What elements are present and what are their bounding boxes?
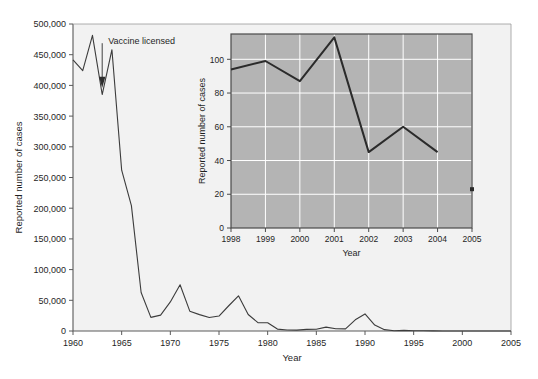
main-x-tick-label: 1965 (112, 338, 132, 348)
main-y-tick-label: 300,000 (33, 142, 66, 152)
main-x-tick-label: 1990 (355, 338, 375, 348)
main-x-tick-label: 1960 (63, 338, 83, 348)
main-x-tick-label: 2000 (452, 338, 472, 348)
inset-x-tick-label: 2001 (325, 234, 344, 244)
inset-y-tick-label: 40 (215, 156, 225, 166)
main-y-tick-label: 50,000 (38, 296, 66, 306)
inset-y-tick-label: 60 (215, 122, 225, 132)
main-x-tick-label: 1985 (306, 338, 326, 348)
inset-y-tick-label: 80 (215, 88, 225, 98)
inset-x-tick-label: 2002 (359, 234, 378, 244)
inset-x-tick-label: 2004 (428, 234, 447, 244)
main-x-tick-label: 1995 (404, 338, 424, 348)
chart-svg: 050,000100,000150,000200,000250,000300,0… (0, 0, 538, 379)
main-x-tick-label: 2005 (501, 338, 521, 348)
main-y-tick-label: 450,000 (33, 50, 66, 60)
inset-x-tick-label: 1998 (222, 234, 241, 244)
inset-y-tick-label: 0 (219, 223, 224, 233)
main-y-tick-label: 250,000 (33, 173, 66, 183)
main-x-tick-label: 1975 (209, 338, 229, 348)
main-x-axis-title: Year (282, 352, 301, 363)
main-x-tick-label: 1980 (258, 338, 278, 348)
main-y-tick-label: 100,000 (33, 265, 66, 275)
vaccine-licensed-label: Vaccine licensed (108, 36, 175, 46)
inset-x-tick-label: 2000 (290, 234, 309, 244)
main-y-tick-label: 500,000 (33, 19, 66, 29)
inset-data-marker (470, 187, 474, 191)
inset-x-axis-title: Year (342, 248, 360, 258)
inset-y-tick-label: 100 (210, 55, 224, 65)
inset-x-tick-label: 1999 (256, 234, 275, 244)
main-y-tick-label: 200,000 (33, 204, 66, 214)
main-y-axis-title: Reported number of cases (13, 121, 24, 233)
inset-y-tick-label: 20 (215, 189, 225, 199)
main-y-tick-label: 400,000 (33, 81, 66, 91)
main-y-tick-label: 350,000 (33, 112, 66, 122)
figure-container: 050,000100,000150,000200,000250,000300,0… (0, 0, 538, 379)
inset-y-axis-title: Reported number of cases (197, 77, 207, 184)
inset-x-tick-label: 2005 (463, 234, 482, 244)
inset-x-tick-label: 2003 (394, 234, 413, 244)
main-y-tick-label: 150,000 (33, 234, 66, 244)
main-y-tick-label: 0 (61, 326, 66, 336)
main-x-tick-label: 1970 (160, 338, 180, 348)
